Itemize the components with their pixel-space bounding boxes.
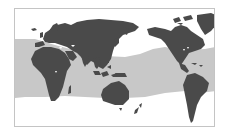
region-new-guinea — [115, 73, 127, 77]
region-greenland — [197, 13, 215, 35]
region-south-america — [183, 73, 209, 123]
world-map — [15, 9, 215, 127]
region-new-zealand — [134, 103, 142, 114]
region-tasmania — [119, 108, 122, 111]
region-arctic-islands — [173, 15, 193, 25]
map-frame — [14, 8, 215, 127]
region-uk — [40, 32, 43, 38]
region-iceland — [31, 28, 37, 31]
